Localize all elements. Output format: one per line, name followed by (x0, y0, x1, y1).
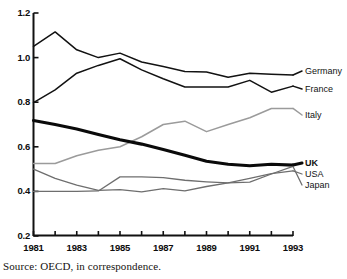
y-tick-label: 0.4 (0, 185, 30, 196)
line-chart: 1.21.00.80.60.40.2 198119831985198719891… (0, 0, 347, 279)
y-tick-label: 1.2 (0, 7, 30, 18)
series-label-japan: Japan (305, 180, 330, 190)
legend-leader-lines (293, 71, 302, 185)
series-line-uk (34, 120, 294, 165)
leader-line-france (293, 86, 302, 89)
series-line-italy (34, 108, 294, 163)
series-line-germany (34, 32, 294, 77)
leader-line-italy (293, 108, 302, 115)
y-tick-label: 0.6 (0, 141, 30, 152)
source-note: Source: OECD, in correspondence. (3, 260, 161, 272)
series-label-usa: USA (305, 169, 324, 179)
series-label-italy: Italy (305, 110, 322, 120)
x-tick-label: 1993 (273, 242, 313, 253)
chart-plot-area (0, 0, 347, 279)
x-tick-label: 1991 (230, 242, 270, 253)
y-tick-label: 0.8 (0, 96, 30, 107)
y-tick-label: 1.0 (0, 52, 30, 63)
series-label-france: France (305, 84, 333, 94)
series-label-germany: Germany (305, 66, 342, 76)
leader-line-usa (293, 171, 302, 174)
x-tick-label: 1987 (143, 242, 183, 253)
series-line-france (34, 59, 294, 103)
leader-line-japan (293, 166, 302, 185)
leader-line-germany (293, 71, 302, 75)
series-line-japan (34, 166, 294, 191)
x-tick-label: 1989 (187, 242, 227, 253)
y-tick-label: 0.2 (0, 230, 30, 241)
leader-line-uk (293, 163, 302, 165)
x-tick-label: 1983 (57, 242, 97, 253)
chart-series-lines (34, 32, 294, 192)
series-label-uk: UK (305, 158, 318, 168)
x-tick-label: 1985 (100, 242, 140, 253)
x-tick-label: 1981 (14, 242, 54, 253)
